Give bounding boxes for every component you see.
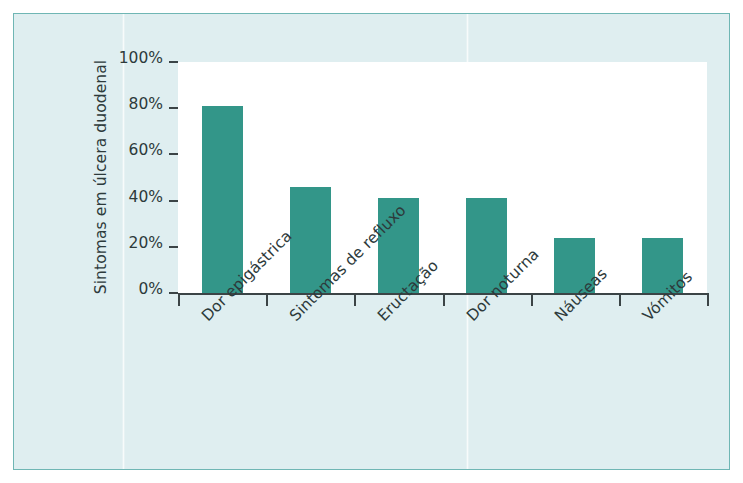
chart-figure: Sintomas em úlcera duodenal 0%20%40%60%8… — [13, 13, 730, 470]
y-tick-100: 100% — [169, 61, 178, 63]
y-tick-40: 40% — [169, 200, 178, 202]
y-tick-label: 100% — [119, 51, 163, 67]
y-tick-label: 20% — [129, 236, 163, 252]
x-tick — [354, 295, 356, 306]
y-tick-80: 80% — [169, 107, 178, 109]
y-tick-label: 0% — [138, 282, 163, 298]
y-tick-0: 0% — [169, 292, 178, 294]
bar — [202, 106, 243, 293]
x-tick — [443, 295, 445, 306]
y-axis-title: Sintomas em úlcera duodenal — [92, 27, 110, 327]
x-tick-end — [178, 295, 180, 306]
y-tick-20: 20% — [169, 246, 178, 248]
y-tick-label: 40% — [129, 190, 163, 206]
y-tick-60: 60% — [169, 153, 178, 155]
x-tick — [619, 295, 621, 306]
paper-seam-left — [122, 14, 125, 469]
x-tick — [266, 295, 268, 306]
y-tick-label: 80% — [129, 97, 163, 113]
x-tick-end — [707, 295, 709, 306]
x-tick — [531, 295, 533, 306]
y-tick-label: 60% — [129, 143, 163, 159]
